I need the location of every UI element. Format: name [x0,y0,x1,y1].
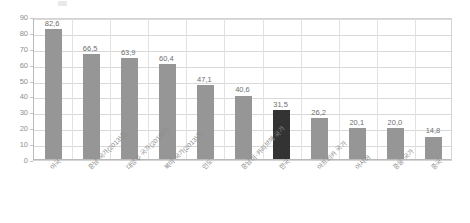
y-axis-tick-label: 60 [2,62,28,70]
bar [159,64,176,160]
bar-value-label: 40,6 [226,86,260,94]
bar-value-label: 66,5 [73,45,107,53]
bar-value-label: 26,2 [302,109,336,117]
bar-chart: 9080706050403020100 82,666,563,960,447,1… [0,0,470,223]
bar-value-label: 82,6 [35,20,69,28]
y-axis-tick-label: 70 [2,46,28,54]
bar-value-label: 14,8 [416,127,450,135]
bar-value-label: 60,4 [149,55,183,63]
bar [311,118,328,160]
y-axis-tick-label: 30 [2,109,28,117]
vertical-gridline [72,19,73,160]
bar [235,96,252,161]
y-axis-tick-label: 0 [2,157,28,165]
y-axis-tick-label: 50 [2,78,28,86]
y-axis-tick-label: 20 [2,125,28,133]
bar-value-label: 47,1 [187,76,221,84]
y-axis-tick-label: 40 [2,93,28,101]
bar [83,54,100,160]
gridline [34,35,451,36]
vertical-gridline [377,19,378,160]
bar [197,85,214,160]
vertical-gridline [186,19,187,160]
bar [45,29,62,160]
y-axis-tick-label: 80 [2,30,28,38]
vertical-gridline [263,19,264,160]
vertical-gridline [415,19,416,160]
y-axis-tick-label: 10 [2,141,28,149]
vertical-gridline [339,19,340,160]
y-axis-tick-mark [30,161,33,162]
bar-value-label: 31,5 [264,101,298,109]
gridline [34,19,451,20]
bar-value-label: 63,9 [111,49,145,57]
vertical-gridline [110,19,111,160]
vertical-gridline [148,19,149,160]
bar-value-label: 20,1 [340,119,374,127]
image-artifact [58,1,67,6]
bar [425,137,442,161]
bar-value-label: 20,0 [378,119,412,127]
y-axis-tick-label: 90 [2,14,28,22]
bar [121,58,138,160]
vertical-gridline [301,19,302,160]
